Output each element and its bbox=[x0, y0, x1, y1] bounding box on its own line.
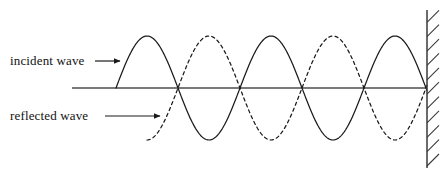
wave-diagram-canvas bbox=[0, 0, 445, 179]
incident-wave-label: incident wave bbox=[10, 53, 85, 69]
reflected-wave-label: reflected wave bbox=[10, 108, 88, 124]
wave-reflection-figure: incident wave reflected wave bbox=[0, 0, 445, 179]
wall-hatching bbox=[427, 10, 439, 166]
